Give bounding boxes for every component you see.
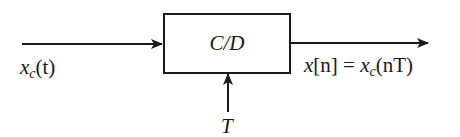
input-signal-symbol: x	[20, 55, 29, 79]
output-equals: =	[343, 53, 355, 77]
output-lhs-index: [n]	[313, 53, 338, 77]
output-signal-label: x[n] = xc(nT)	[304, 55, 413, 79]
output-rhs-argument: (nT)	[376, 53, 413, 77]
cd-converter-block: C/D	[163, 13, 291, 74]
block-label: C/D	[209, 31, 244, 56]
sampling-period-label: T	[221, 116, 233, 137]
input-signal-label: xc(t)	[20, 57, 55, 81]
output-lhs-symbol: x	[304, 53, 313, 77]
output-rhs-symbol: x	[360, 53, 369, 77]
input-signal-argument: (t)	[36, 55, 56, 79]
